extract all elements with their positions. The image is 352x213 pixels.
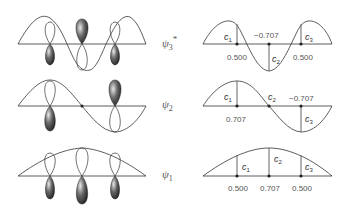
coef-label-c1: c1 [242, 162, 251, 173]
orbital-psi3-star-lobes [18, 16, 146, 70]
coef-value-c1: 0.500 [228, 184, 249, 193]
coef-value-c3: 0.500 [292, 184, 313, 193]
coef-label-c2: c2 [274, 154, 283, 165]
orbital-label-psi1: ψ1 [162, 168, 173, 183]
coef-value-c1: 0.500 [227, 53, 248, 62]
orbital-psi2-coefficient-plot: c1 c2 c3 0.707 −0.707 [203, 81, 332, 132]
orbital-psi1-lobes [18, 148, 146, 204]
psi-subscript: 3 [169, 43, 173, 52]
mo-diagram: c1 c2 c3 −0.707 0.500 0.500 c1 c2 c3 0.7… [0, 0, 352, 213]
coef-value-c1: 0.707 [226, 115, 247, 124]
coef-value-c2: −0.707 [254, 31, 279, 40]
coef-value-c2: 0.707 [260, 184, 281, 193]
psi-subscript: 1 [169, 174, 173, 183]
psi-subscript: 2 [169, 104, 173, 113]
orbital-label-psi3-star: ψ3* [162, 34, 177, 52]
psi-symbol: ψ [162, 168, 169, 180]
orbital-psi1-coefficient-plot: c1 c2 c3 0.500 0.707 0.500 [203, 148, 332, 193]
coef-label-c1: c1 [224, 92, 233, 103]
coef-value-c3: 0.500 [293, 53, 314, 62]
coef-label-c1: c1 [224, 32, 233, 43]
orbital-label-psi2: ψ2 [162, 98, 173, 113]
coef-label-c3: c3 [305, 32, 314, 43]
coef-label-c3: c3 [305, 162, 314, 173]
orbital-psi3-star-coefficient-plot: c1 c2 c3 −0.707 0.500 0.500 [203, 21, 332, 71]
coef-label-c2: c2 [272, 54, 281, 65]
coef-label-c2: c2 [268, 92, 277, 103]
psi-superscript: * [173, 34, 178, 44]
psi-symbol: ψ [162, 37, 169, 49]
coef-label-c3: c3 [305, 114, 314, 125]
orbital-psi2-lobes [18, 80, 146, 132]
coef-value-c3: −0.707 [289, 94, 314, 103]
psi-symbol: ψ [162, 98, 169, 110]
